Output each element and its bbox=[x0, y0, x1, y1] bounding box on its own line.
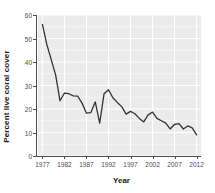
x-tick-mark bbox=[175, 156, 176, 159]
y-tick-label: 10 bbox=[18, 129, 32, 136]
plot-area bbox=[38, 15, 201, 156]
y-tick-mark bbox=[33, 109, 36, 110]
y-tick-label: 40 bbox=[18, 59, 32, 66]
x-tick-label: 2012 bbox=[182, 161, 212, 168]
x-tick-mark bbox=[153, 156, 154, 159]
y-tick-label: 30 bbox=[18, 82, 32, 89]
x-tick-mark bbox=[64, 156, 65, 159]
y-tick-mark bbox=[33, 62, 36, 63]
x-tick-mark bbox=[197, 156, 198, 159]
x-tick-mark bbox=[131, 156, 132, 159]
data-series-line bbox=[42, 24, 196, 134]
x-axis-line bbox=[36, 156, 201, 157]
coral-cover-line-chart: Percent live coral cover 0102030405060 1… bbox=[0, 0, 215, 193]
y-tick-label: 20 bbox=[18, 106, 32, 113]
y-tick-label: 60 bbox=[18, 12, 32, 19]
x-tick-mark bbox=[108, 156, 109, 159]
x-axis-title: Year bbox=[36, 176, 207, 185]
gridlines-major bbox=[38, 15, 201, 156]
y-tick-mark bbox=[33, 15, 36, 16]
y-tick-label: 50 bbox=[18, 35, 32, 42]
x-tick-mark bbox=[42, 156, 43, 159]
x-tick-mark bbox=[86, 156, 87, 159]
y-tick-mark bbox=[33, 156, 36, 157]
y-tick-mark bbox=[33, 133, 36, 134]
plot-panel bbox=[38, 15, 201, 156]
y-axis-title: Percent live coral cover bbox=[0, 0, 12, 193]
y-tick-label: 0 bbox=[18, 153, 32, 160]
y-tick-mark bbox=[33, 39, 36, 40]
y-tick-mark bbox=[33, 86, 36, 87]
y-axis-line bbox=[36, 15, 37, 157]
